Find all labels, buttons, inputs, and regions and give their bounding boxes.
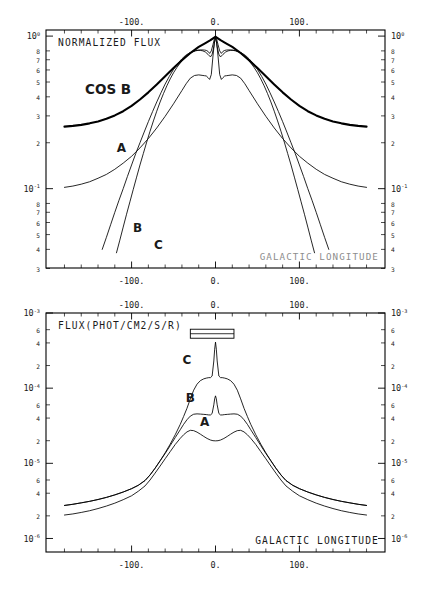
x-tick-label: 0. <box>210 17 220 27</box>
series-b <box>64 396 366 506</box>
figure-container: -100.-100.0.0.100.100.100100887766554433… <box>0 0 424 589</box>
y-tick-label: 3 <box>391 266 395 273</box>
y-tick-label: 6 <box>391 327 395 334</box>
x-tick-label: -100. <box>119 300 145 310</box>
y-tick-label: 10-4 <box>391 383 408 393</box>
y-tick-label: 5 <box>36 79 40 86</box>
y-tick-label: 10-3 <box>391 308 408 318</box>
y-tick-label: 4 <box>36 246 40 253</box>
series-a <box>64 37 366 187</box>
curve-label-b: B <box>186 391 195 405</box>
figure-svg: -100.-100.0.0.100.100.100100887766554433… <box>0 0 424 589</box>
y-tick-label: 6 <box>36 402 40 409</box>
panel-top: -100.-100.0.0.100.100.100100887766554433… <box>24 17 408 286</box>
y-tick-label: 2 <box>36 438 40 445</box>
y-tick-label: 7 <box>391 57 395 64</box>
y-tick-label: 5 <box>391 79 395 86</box>
y-tick-label: 6 <box>36 220 40 227</box>
y-tick-label: 6 <box>391 402 395 409</box>
y-tick-label: 2 <box>391 363 395 370</box>
y-tick-label: 4 <box>391 340 395 347</box>
curve-label-b: B <box>133 221 142 235</box>
panel-bottom-xlabel: GALACTIC LONGITUDE <box>255 535 379 546</box>
y-tick-label: 4 <box>36 94 40 101</box>
panel-top-frame <box>46 30 385 268</box>
y-tick-label: 8 <box>36 48 40 55</box>
y-tick-label: 100 <box>27 31 40 41</box>
y-tick-label: 6 <box>391 477 395 484</box>
x-tick-label: 0. <box>210 300 220 310</box>
y-tick-label: 4 <box>391 415 395 422</box>
y-tick-label: 7 <box>391 209 395 216</box>
curve-label-a: A <box>117 141 127 155</box>
y-tick-label: 4 <box>391 490 395 497</box>
y-tick-label: 2 <box>391 513 395 520</box>
curve-label-c: C <box>154 238 163 252</box>
x-tick-label: -100. <box>119 17 145 27</box>
y-tick-label: 10-3 <box>24 308 41 318</box>
y-tick-label: 5 <box>36 232 40 239</box>
y-tick-label: 7 <box>36 57 40 64</box>
y-tick-label: 2 <box>391 438 395 445</box>
y-tick-label: 10-6 <box>24 533 41 543</box>
y-tick-label: 8 <box>36 201 40 208</box>
y-tick-label: 6 <box>391 220 395 227</box>
y-tick-label: 8 <box>391 48 395 55</box>
x-tick-label: 100. <box>289 300 309 310</box>
y-tick-label: 3 <box>36 113 40 120</box>
x-tick-label: -100. <box>119 560 145 570</box>
y-tick-label: 100 <box>391 31 404 41</box>
x-tick-label: -100. <box>119 276 145 286</box>
curve-label-c: C <box>183 353 192 367</box>
curve-label-a: A <box>200 415 210 429</box>
y-tick-label: 7 <box>36 209 40 216</box>
panel-top-xlabel: GALACTIC LONGITUDE <box>260 251 379 262</box>
x-tick-label: 100. <box>289 17 309 27</box>
y-tick-label: 6 <box>391 67 395 74</box>
y-tick-label: 3 <box>391 113 395 120</box>
y-tick-label: 2 <box>391 140 395 147</box>
curve-label-cos-b: COS B <box>85 81 131 97</box>
panel-top-title: NORMALIZED FLUX <box>58 37 161 48</box>
panel-bottom: -100.-100.0.0.100.100.10-310-366442210-4… <box>24 300 408 570</box>
x-tick-label: 0. <box>210 560 220 570</box>
y-tick-label: 10-1 <box>391 183 408 193</box>
y-tick-label: 2 <box>36 513 40 520</box>
series-c <box>116 37 314 253</box>
y-tick-label: 5 <box>391 232 395 239</box>
y-tick-label: 10-5 <box>391 458 408 468</box>
x-tick-label: 100. <box>289 276 309 286</box>
y-tick-label: 4 <box>36 340 40 347</box>
y-tick-label: 10-1 <box>24 183 41 193</box>
y-tick-label: 6 <box>36 67 40 74</box>
y-tick-label: 2 <box>36 363 40 370</box>
y-tick-label: 6 <box>36 477 40 484</box>
y-tick-label: 10-5 <box>24 458 41 468</box>
x-tick-label: 100. <box>289 560 309 570</box>
x-tick-label: 0. <box>210 276 220 286</box>
y-tick-label: 8 <box>391 201 395 208</box>
series-a <box>64 430 366 515</box>
y-tick-label: 4 <box>36 415 40 422</box>
series-b <box>102 37 329 249</box>
y-tick-label: 4 <box>391 246 395 253</box>
y-tick-label: 6 <box>36 327 40 334</box>
y-tick-label: 2 <box>36 140 40 147</box>
series-c <box>64 342 366 505</box>
y-tick-label: 10-6 <box>391 533 408 543</box>
panel-bottom-title: FLUX(PHOT/CM2/S/R) <box>58 320 182 331</box>
panel-bottom-frame <box>46 313 385 552</box>
y-tick-label: 10-4 <box>24 383 41 393</box>
y-tick-label: 3 <box>36 266 40 273</box>
y-tick-label: 4 <box>36 490 40 497</box>
y-tick-label: 4 <box>391 94 395 101</box>
